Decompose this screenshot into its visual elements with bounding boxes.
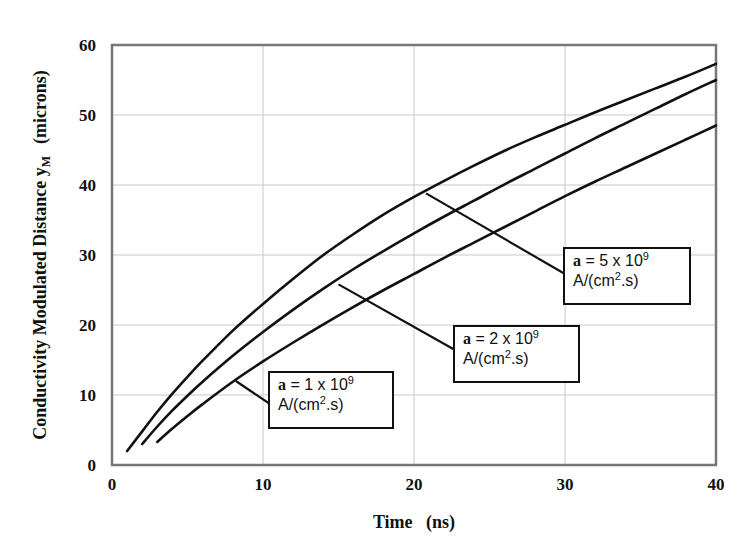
leader-line — [236, 381, 270, 404]
annotation-a5e9: a = 5 x 109 A/(cm2.s) — [563, 247, 691, 305]
annotation-a5e9-line1: a = 5 x 109 — [573, 251, 681, 271]
annotation-a1e9-line1: a = 1 x 109 — [278, 375, 384, 395]
annotation-a2e9: a = 2 x 109 A/(cm2.s) — [453, 325, 580, 383]
annotation-a5e9-line2: A/(cm2.s) — [573, 271, 681, 291]
leader-line — [339, 284, 456, 350]
y-tick-label: 60 — [79, 36, 96, 55]
y-tick-label: 40 — [79, 176, 96, 195]
annotation-a2e9-line1: a = 2 x 109 — [463, 329, 570, 349]
x-tick-label: 40 — [708, 475, 725, 494]
x-axis-ticks: 010203040 — [108, 475, 725, 494]
x-tick-label: 30 — [557, 475, 574, 494]
y-axis-label: Conductivity Modulated Distance yM(micro… — [30, 70, 53, 440]
annotation-a1e9: a = 1 x 109 A/(cm2.s) — [268, 371, 394, 429]
x-tick-label: 20 — [406, 475, 423, 494]
y-tick-label: 30 — [79, 246, 96, 265]
y-tick-label: 10 — [79, 386, 96, 405]
x-axis-label: Time (ns) — [373, 512, 455, 533]
annotation-a1e9-line2: A/(cm2.s) — [278, 395, 384, 415]
x-tick-label: 0 — [108, 475, 117, 494]
annotation-a2e9-line2: A/(cm2.s) — [463, 349, 570, 369]
y-tick-label: 0 — [88, 456, 97, 475]
y-tick-label: 50 — [79, 106, 96, 125]
y-axis-ticks: 0102030405060 — [79, 36, 96, 475]
x-tick-label: 10 — [255, 475, 272, 494]
y-tick-label: 20 — [79, 316, 96, 335]
